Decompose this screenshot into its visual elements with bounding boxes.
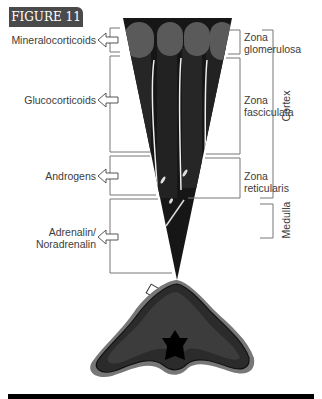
hormone-label-mineralocorticoids: Mineralocorticoids — [11, 34, 96, 46]
bottom-rule — [8, 394, 314, 399]
region-label-medulla: Medulla — [280, 194, 292, 246]
zone-label-glomerulosa: Zona glomerulosa — [244, 31, 301, 55]
adrenal-illustration — [0, 0, 322, 399]
hormone-label-glucocorticoids: Glucocorticoids — [24, 94, 96, 106]
adrenal-wedge — [100, 10, 250, 290]
region-label-cortex: Cortex — [280, 86, 292, 126]
zone-glomerulosa-line1: Zona — [244, 31, 301, 43]
adrenal-gland — [90, 280, 254, 377]
hormone-label-androgens: Androgens — [45, 170, 96, 182]
zone-reticularis-line2: reticularis — [244, 182, 289, 194]
adrenalin-line2: Noradrenalin — [36, 238, 96, 250]
hormone-arrows — [98, 33, 118, 244]
zone-reticularis-line1: Zona — [244, 170, 289, 182]
zone-label-reticularis: Zona reticularis — [244, 170, 289, 194]
adrenalin-line1: Adrenalin/ — [36, 226, 96, 238]
zone-glomerulosa-line2: glomerulosa — [244, 43, 301, 55]
hormone-label-adrenalin: Adrenalin/ Noradrenalin — [36, 226, 96, 250]
